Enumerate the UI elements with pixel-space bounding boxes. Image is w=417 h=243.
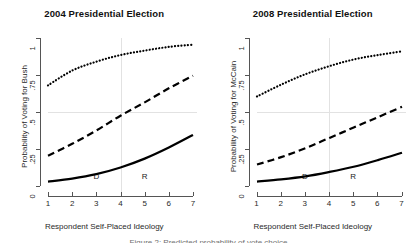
clipped-caption: Figure 2: Predicted probability of vote … [0,238,417,243]
clipped-caption-text: Figure 2: Predicted probability of vote … [0,238,417,243]
series-curve-middle [257,107,402,165]
series-curve-upper [48,45,193,86]
figure-container: 2004 Presidential Election Probability o… [0,0,417,243]
panel-2008: 2008 Presidential Election Probability o… [209,0,417,243]
series-curve-upper [257,51,402,96]
series-curve-middle [48,76,193,156]
curves-layer [0,0,209,243]
curves-layer [209,0,417,243]
panel-2004: 2004 Presidential Election Probability o… [0,0,209,243]
x-axis-label: Respondent Self-Placed Ideology [209,222,417,231]
series-curve-lower [48,135,193,182]
x-axis-label: Respondent Self-Placed Ideology [0,222,209,231]
